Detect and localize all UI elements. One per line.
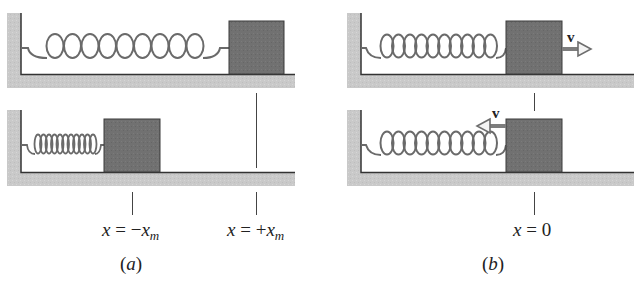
block (229, 21, 284, 74)
label-lhs: x (513, 219, 521, 240)
label-sign: − (131, 219, 142, 240)
block (104, 119, 160, 172)
panel-b (347, 13, 634, 215)
panel-a-bottom-row (7, 110, 295, 186)
velocity-label-top: v (567, 30, 575, 45)
spring-equilibrium (361, 132, 506, 156)
label-zero: x = 0 (513, 220, 551, 239)
velocity-label-bottom: v (492, 106, 500, 121)
label-lhs: x (227, 219, 235, 240)
caption-b: (b) (482, 254, 504, 273)
label-sign: + (256, 219, 267, 240)
floor (7, 173, 295, 186)
spring-block-figure: v v x = −xm x = +xm x = 0 (a) (b) (0, 0, 638, 282)
label-value: 0 (542, 219, 552, 240)
panel-a-top-row (7, 13, 295, 88)
spring-compressed (21, 135, 104, 155)
caption-b-letter: b (488, 253, 498, 274)
panel-a (7, 13, 295, 215)
caption-a-letter: a (126, 253, 136, 274)
label-eq: = (526, 219, 537, 240)
label-minus-xm: x = −xm (102, 220, 159, 242)
label-sub: m (275, 228, 284, 243)
label-var: x (141, 219, 149, 240)
panel-b-top-row (347, 13, 634, 88)
floor (347, 75, 634, 88)
floor (7, 75, 295, 88)
spring-equilibrium (361, 35, 506, 59)
block (506, 119, 562, 172)
caption-a: (a) (120, 254, 142, 273)
label-var: x (266, 219, 274, 240)
label-eq: = (240, 219, 251, 240)
panel-b-bottom-row (347, 110, 634, 186)
spring-stretched (21, 34, 229, 58)
label-eq: = (115, 219, 126, 240)
floor (347, 173, 634, 186)
label-plus-xm: x = +xm (227, 220, 284, 242)
label-lhs: x (102, 219, 110, 240)
block (506, 21, 562, 74)
label-sub: m (150, 228, 159, 243)
